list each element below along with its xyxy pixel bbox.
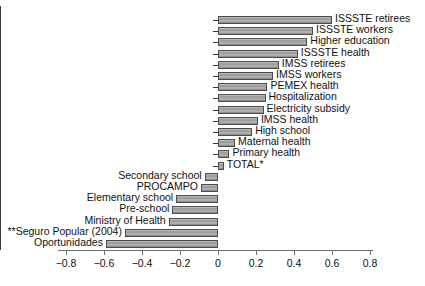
bar xyxy=(218,162,224,170)
x-axis-tick-label: 0 xyxy=(215,257,221,269)
x-axis-tick xyxy=(66,250,67,255)
bar xyxy=(218,27,313,35)
bar xyxy=(218,16,332,24)
concentration-coefficient-bar-chart: ISSSTE retireesISSSTE workersHigher educ… xyxy=(0,0,425,286)
bar xyxy=(125,229,218,237)
bar xyxy=(176,195,218,203)
x-axis-tick xyxy=(370,250,371,255)
x-axis-tick xyxy=(332,250,333,255)
bar xyxy=(218,72,273,80)
x-axis-tick-label: −0.8 xyxy=(56,257,77,269)
x-axis-tick-label: −0.4 xyxy=(132,257,153,269)
plot-area: ISSSTE retireesISSSTE workersHigher educ… xyxy=(0,0,425,250)
x-axis-tick-label: −0.6 xyxy=(94,257,115,269)
x-axis-tick xyxy=(218,250,219,255)
bar xyxy=(218,106,264,114)
cut-off-caption xyxy=(4,277,204,286)
bar xyxy=(218,61,279,69)
bar xyxy=(218,38,307,46)
x-axis-tick xyxy=(104,250,105,255)
x-axis-tick-label: 0.6 xyxy=(325,257,340,269)
bar xyxy=(205,173,218,181)
x-axis-tick-label: 0.4 xyxy=(287,257,302,269)
x-axis-tick xyxy=(294,250,295,255)
bar xyxy=(172,206,218,214)
bar xyxy=(218,117,258,125)
bar-category-label: TOTAL* xyxy=(227,158,264,171)
bar-row: Oportunidades xyxy=(0,238,425,251)
bar-category-label: Oportunidades xyxy=(34,236,103,249)
x-axis-tick xyxy=(180,250,181,255)
bar xyxy=(218,83,267,91)
x-axis-tick-label: 0.2 xyxy=(249,257,264,269)
x-axis-tick-label: −0.2 xyxy=(170,257,191,269)
x-axis-tick-label: 0.8 xyxy=(363,257,378,269)
x-axis-tick xyxy=(142,250,143,255)
bar xyxy=(169,218,218,226)
bar xyxy=(106,240,218,248)
bar xyxy=(218,94,266,102)
x-axis-tick xyxy=(256,250,257,255)
bar xyxy=(201,184,218,192)
